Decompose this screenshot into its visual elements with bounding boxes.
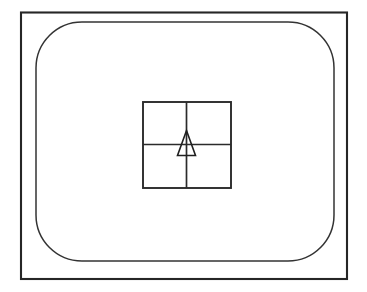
- outer-frame-rect: [21, 13, 347, 280]
- figure-root: Television screen with centered crosshai…: [0, 0, 367, 292]
- screen-bezel-rounded-rect: [36, 22, 334, 261]
- line-drawing-canvas: Television screen with centered crosshai…: [0, 0, 367, 292]
